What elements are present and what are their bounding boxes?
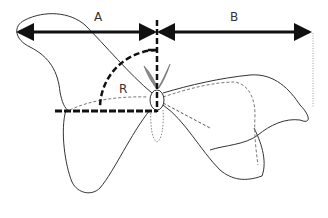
left-forewing-outline xyxy=(17,14,152,112)
left-wing-dashed-outline xyxy=(70,97,148,110)
right-wing-dashed-outline xyxy=(163,82,258,165)
label-b: B xyxy=(230,10,238,24)
abdomen-dotted xyxy=(151,110,164,142)
right-hindwing-outline xyxy=(163,105,264,179)
wing-measurement-diagram xyxy=(0,0,328,218)
left-hindwing-outline xyxy=(63,110,150,193)
label-a: A xyxy=(94,10,102,24)
left-antenna-icon xyxy=(144,66,157,88)
right-forewing-outline xyxy=(163,75,308,150)
right-antenna-icon xyxy=(158,64,170,88)
label-r: R xyxy=(119,82,127,96)
right-hindwing-dashed-edge xyxy=(163,103,210,128)
